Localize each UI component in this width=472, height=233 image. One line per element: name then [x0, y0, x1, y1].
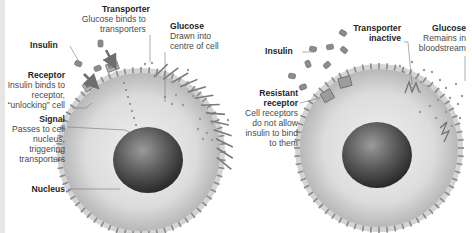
label-insulin-right: Insulin: [265, 46, 293, 56]
insulin-resistance-diagram: Insulin Transporter Glucose binds to tra…: [0, 0, 472, 233]
label-transporter: Transporter: [102, 4, 150, 14]
right-cell: [288, 29, 465, 233]
left-insulin: [74, 40, 103, 72]
right-nucleus: [342, 122, 412, 188]
label-transporter-desc: Glucose binds to transporters: [81, 14, 146, 34]
label-glucose-left: Glucose Drawn into centre of cell: [170, 21, 219, 51]
label-glucose-right: Glucose Remains in bloodstream: [419, 23, 466, 53]
label-resistant-receptor: Resistant receptor Cell receptors do not…: [245, 88, 298, 148]
left-cell: [56, 35, 233, 233]
label-nucleus: Nucleus: [32, 184, 65, 194]
left-nucleus: [113, 127, 183, 193]
diagram-art: [0, 0, 472, 233]
label-insulin-left: Insulin: [30, 40, 58, 50]
label-receptor: Receptor Insulin binds to receptor, “unl…: [8, 70, 65, 110]
label-transporter-inactive: Transporter inactive: [353, 23, 401, 43]
label-signal: Signal Passes to cell nucleus, triggerin…: [12, 114, 65, 164]
